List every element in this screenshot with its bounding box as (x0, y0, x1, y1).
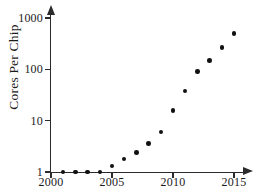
data-point (171, 108, 176, 113)
y-axis-line (50, 14, 51, 172)
y-tick-label: 1000 (18, 12, 43, 24)
data-point (146, 141, 151, 146)
y-axis-arrow-icon (47, 5, 55, 15)
data-point (159, 130, 164, 135)
data-point (110, 164, 115, 169)
y-tick-label: 10 (31, 115, 43, 127)
y-axis-title: Cores Per Chip (7, 7, 21, 127)
x-tick-label: 2005 (100, 176, 125, 189)
y-tick-mark (45, 69, 51, 70)
x-tick-label: 2010 (161, 176, 186, 189)
data-point (134, 150, 139, 155)
data-point (73, 170, 78, 175)
plot-area: 1101001000 2000200520102015 (0, 0, 260, 194)
data-point (207, 58, 212, 63)
data-point (195, 69, 200, 74)
y-tick-label: 100 (24, 63, 43, 75)
cores-per-chip-chart: 1101001000 2000200520102015 Cores Per Ch… (0, 0, 260, 194)
data-point (61, 170, 66, 175)
x-axis-arrow-icon (243, 167, 253, 175)
y-tick-mark (45, 17, 51, 18)
data-point (122, 157, 127, 162)
x-axis-line (51, 172, 244, 173)
data-point (232, 31, 237, 36)
data-point (98, 170, 103, 175)
data-point (85, 170, 90, 175)
y-tick-mark (45, 120, 51, 121)
data-point (183, 89, 188, 94)
data-point (220, 45, 225, 50)
x-tick-label: 2000 (39, 176, 64, 189)
x-tick-label: 2015 (222, 176, 247, 189)
